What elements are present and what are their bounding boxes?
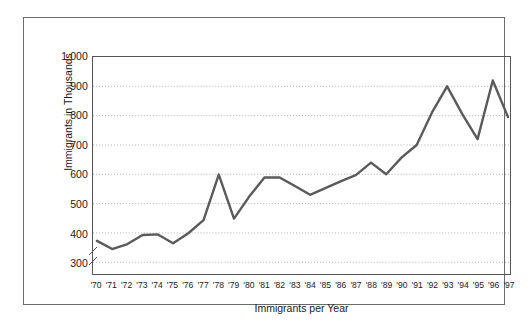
- x-tick-label: '83: [289, 280, 300, 290]
- x-axis-title: Immigrants per Year: [92, 302, 511, 314]
- x-axis-tick-labels: '70'71'72'73'74'75'76'77'78'79'80'81'82'…: [92, 280, 511, 294]
- x-tick-label: '94: [458, 280, 469, 290]
- x-tick-label: '87: [350, 280, 361, 290]
- x-tick-label: '79: [228, 280, 239, 290]
- chart-figure: Immigrants in Thousands 3004005006007008…: [0, 0, 529, 323]
- x-tick-label: '76: [182, 280, 193, 290]
- x-tick-label: '74: [152, 280, 163, 290]
- x-tick-label: '81: [259, 280, 270, 290]
- figure-border: Immigrants in Thousands 3004005006007008…: [23, 17, 505, 305]
- series-line-immigrants: [97, 80, 508, 249]
- x-tick-label: '73: [136, 280, 147, 290]
- x-tick-label: '91: [412, 280, 423, 290]
- y-tick-label: 700: [70, 139, 88, 151]
- x-tick-label: '77: [197, 280, 208, 290]
- x-tick-label: '80: [243, 280, 254, 290]
- x-tick-label: '89: [381, 280, 392, 290]
- x-tick-label: '93: [442, 280, 453, 290]
- x-tick-label: '96: [488, 280, 499, 290]
- data-line-series: [93, 57, 510, 274]
- x-tick-label: '92: [427, 280, 438, 290]
- x-tick-label: '82: [274, 280, 285, 290]
- x-tick-label: '95: [473, 280, 484, 290]
- x-tick-label: '78: [213, 280, 224, 290]
- x-tick-label: '75: [167, 280, 178, 290]
- y-tick-label: 600: [70, 168, 88, 180]
- y-tick-label: 500: [70, 198, 88, 210]
- x-tick-label: '70: [90, 280, 101, 290]
- y-tick-label: 800: [70, 109, 88, 121]
- y-tick-label: 400: [70, 228, 88, 240]
- plot-area: [92, 56, 511, 275]
- y-axis-tick-labels: 3004005006007008009001,000: [48, 56, 88, 275]
- x-tick-label: '86: [335, 280, 346, 290]
- x-tick-label: '84: [305, 280, 316, 290]
- x-tick-label: '72: [121, 280, 132, 290]
- x-tick-label: '90: [396, 280, 407, 290]
- x-tick-label: '71: [106, 280, 117, 290]
- x-tick-label: '88: [366, 280, 377, 290]
- y-tick-label: 900: [70, 80, 88, 92]
- x-tick-label: '97: [503, 280, 514, 290]
- y-tick-label: 1,000: [61, 50, 88, 62]
- x-tick-label: '85: [320, 280, 331, 290]
